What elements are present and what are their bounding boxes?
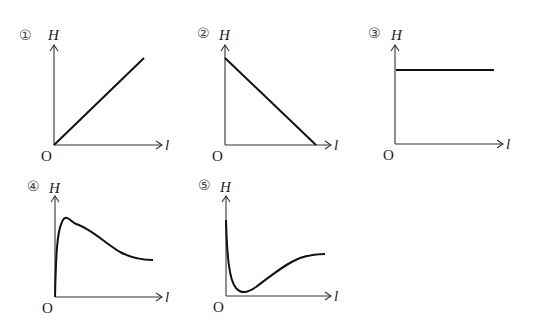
x-axis-label: l <box>334 137 338 153</box>
graphs-figure: ① H l O ② H l O ③ H l O ④ H <box>0 0 538 324</box>
origin-label: O <box>213 299 224 315</box>
graph-number: ④ <box>27 178 40 194</box>
y-axis-label: H <box>48 180 61 196</box>
origin-label: O <box>41 148 52 164</box>
line-increasing <box>54 58 144 145</box>
x-axis-label: l <box>165 289 169 305</box>
line-decreasing <box>225 58 316 145</box>
graph-number: ③ <box>368 25 381 41</box>
graph-4: ④ H l O <box>27 178 169 316</box>
origin-label: O <box>383 147 394 163</box>
x-axis-label: l <box>506 136 510 152</box>
y-axis-label: H <box>219 179 232 195</box>
graph-1: ① H l O <box>19 27 169 164</box>
curve-drop-minimum-rise <box>226 220 325 292</box>
y-axis-label: H <box>390 27 403 43</box>
y-axis-label: H <box>218 27 231 43</box>
origin-label: O <box>42 300 53 316</box>
y-axis-label: H <box>47 27 60 43</box>
graph-number: ⑤ <box>198 177 211 193</box>
graph-number: ① <box>19 27 32 43</box>
x-axis-label: l <box>334 288 338 304</box>
origin-label: O <box>212 148 223 164</box>
graph-5: ⑤ H l O <box>198 177 338 315</box>
graph-2: ② H l O <box>197 25 338 164</box>
x-axis-label: l <box>165 137 169 153</box>
graph-number: ② <box>197 25 210 41</box>
curve-rise-peak-decay <box>55 218 153 297</box>
graph-3: ③ H l O <box>368 25 510 163</box>
